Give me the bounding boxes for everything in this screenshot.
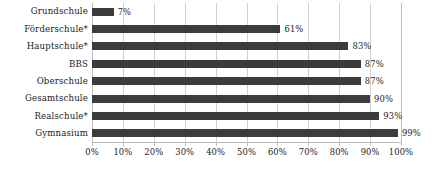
bar-foerderschule — [92, 25, 280, 33]
bar-bbs — [92, 60, 361, 68]
xtick-label-50: 50% — [237, 148, 256, 156]
tick-mark-80 — [339, 142, 340, 146]
category-label-gesamtschule: Gesamtschule — [0, 94, 88, 103]
bar-value-hauptschule: 83% — [352, 42, 371, 50]
xtick-label-70: 70% — [299, 148, 318, 156]
category-label-grundschule: Grundschule — [0, 7, 88, 16]
xtick-label-30: 30% — [175, 148, 194, 156]
tick-mark-50 — [247, 142, 248, 146]
category-label-gymnasium: Gymnasium — [0, 129, 88, 138]
tick-mark-30 — [185, 142, 186, 146]
bar-rows: Grundschule 7% Förderschule* 61% Hauptsc… — [0, 3, 434, 142]
bar-gymnasium — [92, 129, 398, 137]
bar-track: 99% — [92, 125, 401, 142]
tick-mark-10 — [123, 142, 124, 146]
bar-grundschule — [92, 8, 114, 16]
category-label-oberschule: Oberschule — [0, 77, 88, 86]
bar-track: 61% — [92, 20, 401, 37]
xtick-label-20: 20% — [144, 148, 163, 156]
bar-row: Hauptschule* 83% — [0, 38, 434, 55]
bar-track: 90% — [92, 90, 401, 107]
xtick-label-100: 100% — [389, 148, 413, 156]
category-label-realschule: Realschule* — [0, 112, 88, 121]
bar-value-realschule: 93% — [383, 112, 402, 120]
bar-track: 93% — [92, 107, 401, 124]
tick-mark-90 — [370, 142, 371, 146]
bar-chart: Grundschule 7% Förderschule* 61% Hauptsc… — [0, 0, 434, 174]
bar-value-foerderschule: 61% — [284, 25, 303, 33]
bar-gesamtschule — [92, 95, 370, 103]
xtick-label-80: 80% — [330, 148, 349, 156]
tick-mark-20 — [154, 142, 155, 146]
bar-track: 7% — [92, 3, 401, 20]
tick-mark-0 — [92, 142, 93, 146]
bar-row: Gesamtschule 90% — [0, 90, 434, 107]
xtick-label-60: 60% — [268, 148, 287, 156]
category-label-bbs: BBS — [0, 60, 88, 69]
bar-value-bbs: 87% — [365, 60, 384, 68]
bar-track: 87% — [92, 55, 401, 72]
bar-row: Realschule* 93% — [0, 107, 434, 124]
tick-mark-60 — [277, 142, 278, 146]
tick-mark-70 — [308, 142, 309, 146]
bar-track: 87% — [92, 73, 401, 90]
xtick-label-90: 90% — [361, 148, 380, 156]
xtick-label-0: 0% — [85, 148, 99, 156]
bar-row: Förderschule* 61% — [0, 20, 434, 37]
bar-value-grundschule: 7% — [118, 7, 132, 15]
bar-hauptschule — [92, 42, 348, 50]
category-label-foerderschule: Förderschule* — [0, 25, 88, 34]
category-label-hauptschule: Hauptschule* — [0, 42, 88, 51]
bar-row: Grundschule 7% — [0, 3, 434, 20]
tick-mark-40 — [216, 142, 217, 146]
xtick-label-10: 10% — [113, 148, 132, 156]
bar-row: Gymnasium 99% — [0, 125, 434, 142]
bar-row: Oberschule 87% — [0, 73, 434, 90]
bar-oberschule — [92, 77, 361, 85]
tick-mark-100 — [401, 142, 402, 146]
bar-value-gymnasium: 99% — [402, 129, 421, 137]
bar-value-oberschule: 87% — [365, 77, 384, 85]
bar-row: BBS 87% — [0, 55, 434, 72]
x-axis-tick-labels: 0% 10% 20% 30% 40% 50% 60% 70% 80% 90% 1… — [0, 148, 434, 168]
xtick-label-40: 40% — [206, 148, 225, 156]
bar-value-gesamtschule: 90% — [374, 94, 393, 102]
bar-track: 83% — [92, 38, 401, 55]
bar-realschule — [92, 112, 379, 120]
